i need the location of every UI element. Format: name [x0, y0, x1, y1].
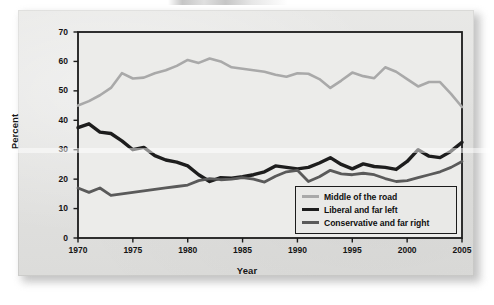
y-tick-label: 70	[44, 27, 68, 37]
x-tick-label: 2000	[390, 245, 424, 255]
plot-area	[0, 0, 494, 305]
legend-swatch-middle-of-the-road	[302, 195, 319, 198]
x-tick-label: 1990	[280, 245, 314, 255]
legend-item: Middle of the road	[300, 190, 452, 203]
y-tick-label: 10	[44, 203, 68, 213]
x-tick-label: 1995	[335, 245, 369, 255]
legend-item: Conservative and far right	[300, 216, 452, 229]
y-tick-label: 30	[44, 144, 68, 154]
x-tick-label: 1975	[116, 245, 150, 255]
legend-swatch-conservative-and-far-right	[302, 221, 319, 224]
y-tick-label: 60	[44, 56, 68, 66]
x-tick-label: 1980	[171, 245, 205, 255]
legend-swatch-liberal-and-far-left	[302, 208, 319, 211]
legend-label-middle-of-the-road: Middle of the road	[324, 192, 397, 202]
x-tick-label: 1970	[61, 245, 95, 255]
legend-label-liberal-and-far-left: Liberal and far left	[324, 205, 398, 215]
y-tick-label: 0	[44, 233, 68, 243]
legend-label-conservative-and-far-right: Conservative and far right	[324, 218, 429, 228]
x-tick-label: 1985	[226, 245, 260, 255]
legend-item: Liberal and far left	[300, 203, 452, 216]
chart-figure: Percent Year 010203040506070197019751980…	[0, 0, 494, 305]
chart-legend: Middle of the road Liberal and far left …	[295, 186, 457, 234]
x-axis-title: Year	[0, 265, 494, 276]
y-tick-label: 40	[44, 115, 68, 125]
y-tick-label: 50	[44, 85, 68, 95]
x-tick-label: 2005	[445, 245, 479, 255]
y-tick-label: 20	[44, 174, 68, 184]
y-axis-title: Percent	[9, 102, 20, 162]
